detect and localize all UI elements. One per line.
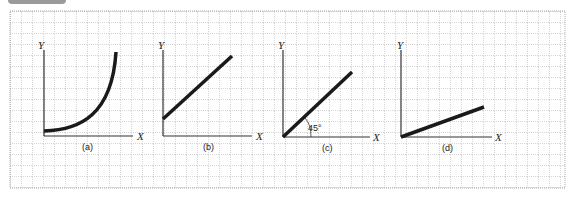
x-axis-label: X bbox=[255, 130, 264, 142]
graph-paper-figure: Y X (a) Y X (b) Y X 45° (c) Y X (d) bbox=[0, 0, 573, 200]
x-axis-label: X bbox=[372, 131, 381, 143]
panel-caption: (a) bbox=[82, 142, 93, 152]
panel-caption: (c) bbox=[322, 143, 333, 153]
grid-background bbox=[10, 11, 565, 188]
x-axis-label: X bbox=[494, 131, 503, 143]
angle-label: 45° bbox=[308, 123, 322, 133]
panel-caption: (b) bbox=[203, 142, 214, 152]
x-axis-label: X bbox=[136, 130, 145, 142]
panel-caption: (d) bbox=[442, 143, 453, 153]
